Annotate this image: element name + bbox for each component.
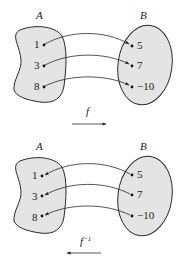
b-value-5: 5 [137,168,143,180]
b-value-7: 7 [137,59,143,71]
diagram-f: A B 1 3 8 5 7 −10 f [14,9,177,124]
set-b-blob [113,22,178,109]
a-value-3: 3 [32,190,38,202]
diagram-f-inverse: A B 1 3 8 5 7 −10 f−1 [14,140,177,253]
a-value-8: 8 [34,80,40,92]
set-b-label: B [140,140,147,152]
a-value-3: 3 [34,59,40,71]
set-a-label: A [35,9,43,21]
inverse-function-label: f−1 [80,235,91,247]
b-value-neg10: −10 [137,209,155,221]
a-value-8: 8 [32,211,38,223]
function-inverse-diagram: A B 1 3 8 5 7 −10 f A B 1 3 8 [0,0,181,264]
b-value-neg10: −10 [137,80,155,92]
set-a-label: A [35,140,43,152]
set-b-blob [113,153,178,240]
set-b-label: B [140,9,147,21]
a-value-1: 1 [34,38,40,50]
b-value-7: 7 [137,188,143,200]
b-value-5: 5 [137,39,143,51]
a-value-1: 1 [32,169,38,181]
function-label: f [86,105,91,117]
